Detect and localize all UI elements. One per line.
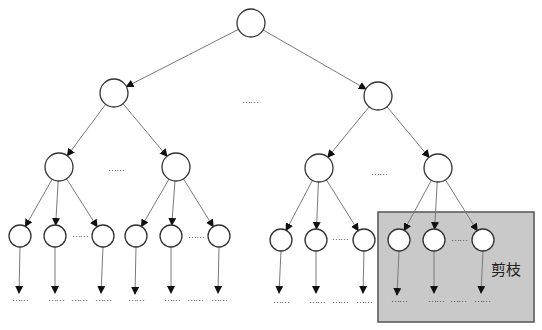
ellipsis-marker: …… xyxy=(71,293,87,303)
ellipsis-marker: …… xyxy=(273,295,289,305)
tree-node-l3-7 xyxy=(270,229,292,251)
ellipsis-marker: …… xyxy=(450,294,466,304)
tree-edge xyxy=(328,107,369,157)
tree-edge xyxy=(126,29,238,86)
tree-edge xyxy=(25,179,52,226)
ellipsis-marker: …… xyxy=(211,293,227,303)
search-tree-diagram: …………………………………………………………………………………………………………… xyxy=(0,0,542,330)
tree-node-l3-8 xyxy=(305,229,327,251)
ellipsis-marker: …… xyxy=(332,295,348,305)
tree-edge xyxy=(56,181,59,225)
leaf-arrow xyxy=(101,247,103,293)
ellipsis-marker: …… xyxy=(164,293,180,303)
ellipsis-marker: …… xyxy=(12,293,28,303)
tree-node-l3-3 xyxy=(92,225,114,247)
tree-node-l3-12 xyxy=(472,229,494,251)
tree-node-l3-4 xyxy=(125,225,147,247)
ellipsis-marker: …… xyxy=(428,294,444,304)
tree-node-l3-1 xyxy=(9,225,31,247)
tree-edge xyxy=(387,107,429,157)
ellipsis-marker: …… xyxy=(391,294,407,304)
ellipsis-marker: …… xyxy=(48,293,64,303)
tree-edge xyxy=(316,182,318,229)
tree-node-l3-2 xyxy=(44,225,66,247)
ellipsis-marker: …… xyxy=(188,230,204,240)
tree-node-l3-10 xyxy=(388,229,410,251)
tree-edge xyxy=(67,104,105,156)
ellipsis-marker: …… xyxy=(108,163,124,173)
prune-label: 剪枝 xyxy=(491,261,521,279)
leaf-arrow xyxy=(19,247,20,293)
ellipsis-marker: …… xyxy=(451,233,467,243)
tree-node-l1-left xyxy=(100,79,128,107)
leaf-arrow xyxy=(218,247,219,293)
ellipsis-marker: …… xyxy=(332,232,348,242)
tree-node-l2-rr xyxy=(424,154,452,182)
ellipsis-marker: …… xyxy=(128,293,144,303)
tree-node-l3-5 xyxy=(160,225,182,247)
tree-node-l2-rl xyxy=(305,154,333,182)
leaf-arrow xyxy=(279,251,281,293)
ellipsis-marker: …… xyxy=(309,295,325,305)
ellipsis-marker: …… xyxy=(187,293,203,303)
tree-edge xyxy=(67,179,98,227)
tree-edge xyxy=(142,179,169,226)
tree-node-l1-right xyxy=(364,82,392,110)
ellipsis-marker: …… xyxy=(356,295,372,305)
tree-edge xyxy=(263,30,366,89)
leaf-arrow xyxy=(135,247,136,294)
tree-node-l2-lr xyxy=(162,153,190,181)
tree-node-l3-11 xyxy=(423,229,445,251)
tree-node-l3-6 xyxy=(208,225,230,247)
tree-edge xyxy=(172,181,175,225)
tree-node-root xyxy=(237,9,265,37)
ellipsis-marker: …… xyxy=(474,294,490,304)
tree-node-l2-ll xyxy=(45,153,73,181)
ellipsis-marker: …… xyxy=(72,229,88,239)
tree-node-l3-9 xyxy=(353,229,375,251)
tree-edge xyxy=(326,180,358,231)
tree-edge xyxy=(183,179,213,227)
tree-edge xyxy=(286,180,312,230)
tree-edge xyxy=(123,104,167,157)
ellipsis-marker: …… xyxy=(371,167,387,177)
ellipsis-marker: …… xyxy=(242,95,258,105)
ellipsis-marker: …… xyxy=(95,293,111,303)
leaf-arrow xyxy=(363,251,364,293)
